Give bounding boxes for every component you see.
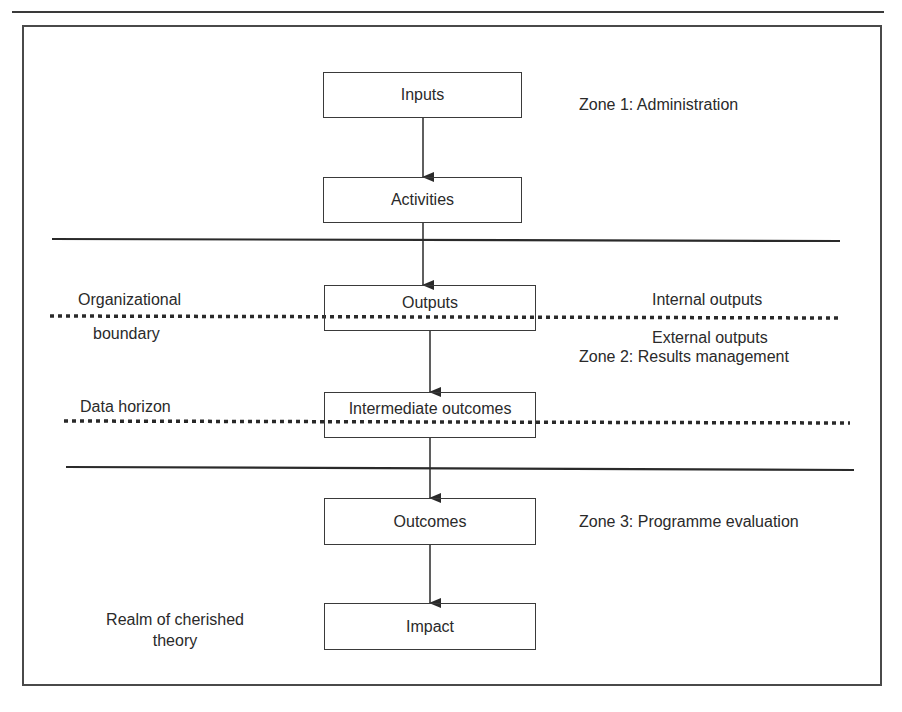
box-inputs-label: Inputs — [401, 86, 445, 104]
zone-separator-1 — [52, 239, 840, 241]
data-horizon-label: Data horizon — [80, 397, 171, 417]
zone-3-label: Zone 3: Programme evaluation — [579, 512, 799, 532]
box-outputs: Outputs — [324, 285, 536, 331]
box-outputs-label: Outputs — [402, 294, 458, 312]
organizational-boundary-label-line1: Organizational — [78, 290, 181, 310]
box-intermediate-outcomes: Intermediate outcomes — [324, 392, 536, 438]
box-impact-label: Impact — [406, 618, 454, 636]
cherished-theory-label-line1: Realm of cherished — [75, 610, 275, 630]
internal-outputs-label: Internal outputs — [652, 290, 762, 310]
box-activities: Activities — [323, 177, 522, 223]
box-outcomes: Outcomes — [324, 498, 536, 545]
box-outcomes-label: Outcomes — [394, 513, 467, 531]
zone-separator-2 — [66, 467, 854, 470]
cherished-theory-label-line2: theory — [75, 631, 275, 651]
box-inputs: Inputs — [323, 72, 522, 118]
external-outputs-label: External outputs — [652, 328, 768, 348]
organizational-boundary-label-line2: boundary — [93, 324, 160, 344]
zone-2-label: Zone 2: Results management — [579, 347, 789, 367]
zone-1-label: Zone 1: Administration — [579, 95, 738, 115]
box-intermediate-outcomes-label: Intermediate outcomes — [349, 400, 512, 418]
box-impact: Impact — [324, 603, 536, 650]
box-activities-label: Activities — [391, 191, 454, 209]
